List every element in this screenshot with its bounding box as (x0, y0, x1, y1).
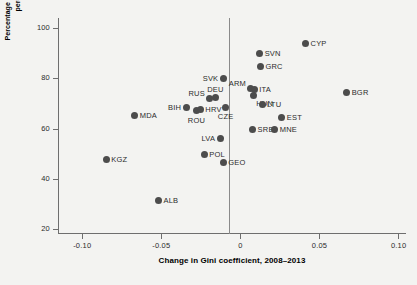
x-tick-label: 0.05 (312, 241, 327, 250)
data-point-est[interactable] (278, 114, 285, 121)
x-tick-0: 0 (240, 234, 241, 239)
plot-area (58, 18, 406, 234)
data-point-label-rou: ROU (188, 116, 205, 125)
y-tick-label: 60 (41, 124, 50, 133)
y-tick-label: 40 (41, 174, 50, 183)
data-point-label-mda: MDA (140, 111, 157, 120)
data-point-label-est: EST (287, 113, 302, 122)
y-axis-title: Percentage of people thinking inequality… (0, 0, 26, 44)
y-tick-label: 20 (41, 224, 50, 233)
scatter-chart-figure: Percentage of people thinking inequality… (0, 0, 417, 285)
data-point-svk[interactable] (220, 75, 227, 82)
x-tick-label: 0.10 (391, 241, 406, 250)
data-point-label-kgz: KGZ (111, 155, 127, 164)
data-point-label-alb: ALB (163, 196, 178, 205)
y-tick-label: 100 (37, 23, 50, 32)
y-tick-label: 80 (41, 73, 50, 82)
data-point-ltu[interactable] (259, 101, 266, 108)
x-tick-0.10: 0.10 (398, 234, 399, 239)
data-point-label-bgr: BGR (352, 88, 369, 97)
data-point-geo[interactable] (220, 159, 227, 166)
x-axis-title: Change in Gini coefficient, 2008–2013 (58, 256, 406, 265)
data-point-svn[interactable] (256, 50, 263, 57)
data-point-label-lva: LVA (201, 134, 215, 143)
data-point-label-ita: ITA (259, 85, 271, 94)
data-point-label-bih: BIH (168, 103, 181, 112)
data-point-bgr[interactable] (343, 89, 350, 96)
data-point-label-ltu: LTU (267, 100, 281, 109)
data-point-label-rus: RUS (188, 89, 204, 98)
data-point-label-grc: GRC (265, 62, 282, 71)
data-point-lva[interactable] (217, 135, 224, 142)
data-point-label-mne: MNE (280, 125, 297, 134)
data-point-label-cyp: CYP (311, 39, 327, 48)
data-point-cyp[interactable] (302, 40, 309, 47)
data-point-label-svn: SVN (265, 49, 281, 58)
x-tick--0.05: -0.05 (161, 234, 162, 239)
data-point-label-geo: GEO (228, 158, 245, 167)
data-point-bih[interactable] (183, 104, 190, 111)
x-tick--0.10: -0.10 (82, 234, 83, 239)
x-tick-0.05: 0.05 (319, 234, 320, 239)
x-tick-label: -0.10 (73, 241, 91, 250)
data-point-alb[interactable] (155, 197, 162, 204)
data-point-deu[interactable] (212, 94, 219, 101)
data-point-label-svk: SVK (203, 74, 219, 83)
data-point-label-deu: DEU (207, 85, 223, 94)
data-point-cze[interactable] (222, 104, 229, 111)
x-tick-label: 0 (238, 241, 242, 250)
x-tick-label: -0.05 (152, 241, 170, 250)
data-point-hrv[interactable] (197, 106, 204, 113)
data-point-label-arm: ARM (229, 79, 246, 88)
data-point-label-cze: CZE (218, 112, 234, 121)
